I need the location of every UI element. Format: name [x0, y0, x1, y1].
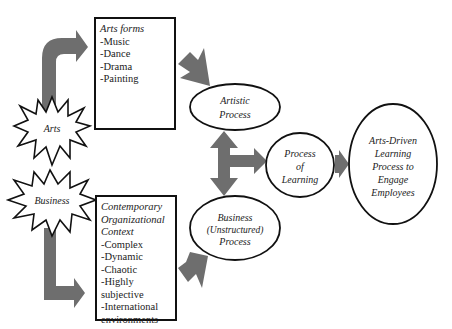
artistic-process-node: Artistic Process — [190, 84, 280, 130]
business-process-line-1: Business — [218, 212, 253, 223]
business-process-node: Business (Unstructured) Process — [190, 196, 280, 260]
arts-form-item: -Music — [100, 36, 170, 49]
arts-driven-line-4: Engage — [377, 174, 409, 185]
process-of-learning-node: Process of Learning — [266, 133, 334, 197]
context-title-line: Contemporary — [101, 201, 171, 214]
context-item: -Highly subjective — [101, 276, 171, 301]
arts-driven-learning-node: Arts-Driven Learning Process to Engage E… — [349, 104, 437, 224]
business-label: Business — [35, 195, 70, 206]
arts-form-item: -Painting — [100, 73, 170, 86]
process-of-learning-line-3: Learning — [281, 174, 319, 185]
arts-form-item: -Dance — [100, 48, 170, 61]
arts-forms-title: Arts forms — [100, 23, 170, 36]
context-title-line: Context — [101, 226, 171, 239]
context-item: -International — [101, 301, 171, 314]
organizational-context-box: Contemporary Organizational Context -Com… — [95, 195, 177, 321]
arrow-arts-to-arts-forms — [42, 30, 88, 115]
arrow-context-to-business-process — [178, 252, 208, 288]
business-process-line-2: (Unstructured) — [207, 225, 264, 236]
context-item: -Chaotic — [101, 264, 171, 277]
business-starburst: Business — [8, 170, 96, 236]
arrow-business-to-context — [44, 228, 85, 308]
arrow-arts-forms-to-artistic-process — [178, 48, 210, 86]
arts-form-item: -Drama — [100, 61, 170, 74]
arts-label: Arts — [43, 123, 61, 134]
business-process-line-3: Process — [218, 236, 250, 247]
arts-driven-line-5: Employees — [370, 187, 414, 198]
arts-driven-line-2: Learning — [374, 148, 412, 159]
artistic-process-line-2: Process — [218, 109, 250, 120]
context-item: -Complex — [101, 239, 171, 252]
arrow-to-process-of-learning — [230, 148, 267, 174]
diagram-canvas: Arts Business Artistic Process Business … — [0, 0, 452, 329]
arrow-to-arts-driven — [335, 150, 349, 178]
process-of-learning-line-1: Process — [283, 148, 315, 159]
context-item: -Dynamic — [101, 251, 171, 264]
context-item: environments — [101, 314, 171, 327]
process-of-learning-line-2: of — [296, 161, 305, 172]
arts-starburst: Arts — [14, 97, 90, 165]
arts-driven-line-1: Arts-Driven — [368, 135, 417, 146]
artistic-process-line-1: Artistic — [219, 95, 250, 106]
arts-driven-line-3: Process to — [371, 161, 414, 172]
arts-forms-box: Arts forms -Music -Dance -Drama -Paintin… — [94, 17, 176, 130]
context-title-line: Organizational — [101, 214, 171, 227]
